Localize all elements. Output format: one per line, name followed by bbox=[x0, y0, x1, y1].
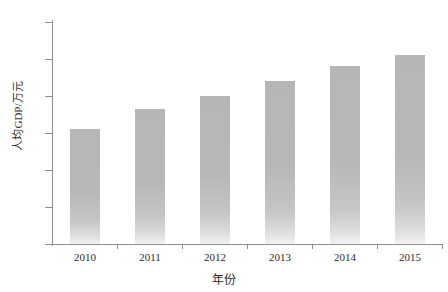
bar bbox=[330, 66, 360, 244]
bar bbox=[265, 81, 295, 244]
x-tick-label: 2010 bbox=[55, 252, 115, 263]
y-tick-mark bbox=[45, 22, 52, 23]
x-tick-mark bbox=[182, 244, 183, 249]
x-tick-label: 2011 bbox=[120, 252, 180, 263]
x-tick-label: 2015 bbox=[380, 252, 440, 263]
y-tick-mark bbox=[45, 59, 52, 60]
x-tick-mark bbox=[117, 244, 118, 249]
x-tick-label: 2013 bbox=[250, 252, 310, 263]
bar bbox=[135, 109, 165, 244]
bar bbox=[395, 55, 425, 244]
bar-chart: 0123456 201020112012201320142015 人均GDP/万… bbox=[0, 0, 448, 292]
x-tick-mark bbox=[442, 244, 443, 249]
y-tick-mark bbox=[45, 207, 52, 208]
x-tick-label: 2014 bbox=[315, 252, 375, 263]
x-axis-title: 年份 bbox=[0, 270, 448, 288]
x-tick-mark bbox=[377, 244, 378, 249]
y-axis-title: 人均GDP/万元 bbox=[9, 61, 25, 171]
bar bbox=[200, 96, 230, 244]
x-tick-mark bbox=[312, 244, 313, 249]
x-tick-label: 2012 bbox=[185, 252, 245, 263]
x-tick-mark bbox=[247, 244, 248, 249]
y-tick-mark bbox=[45, 170, 52, 171]
y-tick-mark bbox=[45, 244, 52, 245]
bar bbox=[70, 129, 100, 244]
y-tick-mark bbox=[45, 133, 52, 134]
y-tick-mark bbox=[45, 96, 52, 97]
y-axis-line bbox=[52, 20, 53, 246]
